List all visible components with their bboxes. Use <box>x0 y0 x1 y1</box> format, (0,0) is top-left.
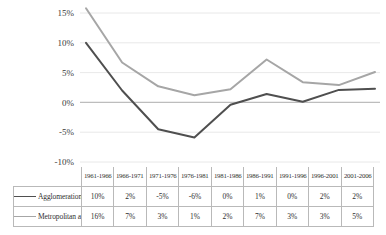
y-axis-tick-labels: 15%10%5%0%-5%-10% <box>55 8 75 167</box>
table-cell-value: 1% <box>244 187 276 207</box>
table-column-header: 1961-1966 <box>82 167 114 187</box>
chart-figure: 15%10%5%0%-5%-10% 1961-19661966-19711971… <box>0 0 386 235</box>
table-cell-value: 3% <box>276 207 308 227</box>
chart-data-table: 1961-19661966-19711971-19761976-19811981… <box>13 167 374 227</box>
legend-line-swatch-icon <box>14 216 36 217</box>
table-column-header-label: 1976-1981 <box>180 167 210 186</box>
table-column-header: 1966-1971 <box>114 167 146 187</box>
table-cell-value: 3% <box>146 207 178 227</box>
table-cell-value: 16% <box>82 207 114 227</box>
table-header: 1961-19661966-19711971-19761976-19811981… <box>14 167 374 187</box>
line-chart-plot: 15%10%5%0%-5%-10% <box>0 0 386 172</box>
table-cell-value: 2% <box>114 187 146 207</box>
y-axis-tick-label: -5% <box>59 127 74 137</box>
table-column-header-label: 1971-1976 <box>147 167 177 186</box>
table-cell-value: 1% <box>179 207 211 227</box>
table-column-header: 1991-1996 <box>276 167 308 187</box>
legend-entry-inner: Agglomeration <box>14 187 81 206</box>
table-cell-value: 10% <box>82 187 114 207</box>
y-axis-tick-label: 15% <box>58 8 75 18</box>
table-body: Agglomeration10%2%-5%-6%0%1%0%2%2%Metrop… <box>14 187 374 227</box>
table-cell-value: 0% <box>276 187 308 207</box>
table-column-header-label: 1991-1996 <box>277 167 307 186</box>
table-column-header-label: 1961-1966 <box>82 167 112 186</box>
table-header-row: 1961-19661966-19711971-19761976-19811981… <box>14 167 374 187</box>
series-line-1 <box>86 8 375 95</box>
table-column-header: 2001-2006 <box>341 167 373 187</box>
table-row: Metropolitan area16%7%3%1%2%7%3%3%5% <box>14 207 374 227</box>
table-cell-value: 3% <box>309 207 341 227</box>
table-column-header-label: 1966-1971 <box>115 167 145 186</box>
table-cell-value: 2% <box>309 187 341 207</box>
y-axis-tick-label: 5% <box>62 68 75 78</box>
legend-series-label: Agglomeration <box>38 187 81 206</box>
y-axis-tick-label: 0% <box>62 98 75 108</box>
legend-entry-1: Metropolitan area <box>14 207 82 227</box>
table-cell-value: 7% <box>114 207 146 227</box>
table-column-header-label: 1981-1986 <box>212 167 242 186</box>
table-column-header-label: 2001-2006 <box>342 167 372 186</box>
table-column-header: 1986-1991 <box>244 167 276 187</box>
legend-entry-0: Agglomeration <box>14 187 82 207</box>
legend-line-swatch-icon <box>14 196 36 197</box>
table-column-header-label: 1996-2001 <box>310 167 340 186</box>
table-cell-value: 2% <box>211 207 243 227</box>
table-column-header: 1971-1976 <box>146 167 178 187</box>
table-cell-value: -6% <box>179 187 211 207</box>
legend-entry-inner: Metropolitan area <box>14 207 81 226</box>
table-column-header-label: 1986-1991 <box>245 167 275 186</box>
table-corner-cell <box>14 167 82 187</box>
table-cell-value: -5% <box>146 187 178 207</box>
y-axis-tick-label: 10% <box>58 38 75 48</box>
legend-series-label: Metropolitan area <box>38 207 81 226</box>
chart-svg: 15%10%5%0%-5%-10% <box>0 0 386 172</box>
y-axis-tick-label: -10% <box>55 157 75 167</box>
table-column-header: 1976-1981 <box>179 167 211 187</box>
gridlines-group <box>80 13 380 162</box>
table-cell-value: 2% <box>341 187 373 207</box>
table-cell-value: 5% <box>341 207 373 227</box>
table-column-header: 1981-1986 <box>211 167 243 187</box>
table-cell-value: 7% <box>244 207 276 227</box>
chart-data-table-wrapper: 1961-19661966-19711971-19761976-19811981… <box>13 167 373 227</box>
table-column-header: 1996-2001 <box>309 167 341 187</box>
table-cell-value: 0% <box>211 187 243 207</box>
table-row: Agglomeration10%2%-5%-6%0%1%0%2%2% <box>14 187 374 207</box>
